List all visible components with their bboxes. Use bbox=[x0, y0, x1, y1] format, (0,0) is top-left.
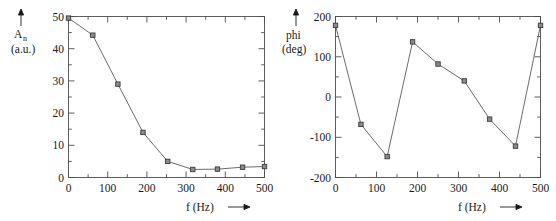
phase-data-markers bbox=[333, 23, 542, 159]
amplitude-x-tick-label-0: 0 bbox=[66, 182, 72, 194]
phase-y-axis-arrow-icon bbox=[293, 9, 298, 26]
amplitude-y-tick-label-0: 0 bbox=[58, 172, 64, 184]
phase-x-tick-label-100: 100 bbox=[368, 182, 386, 194]
amplitude-x-major-ticks bbox=[69, 17, 265, 178]
amplitude-y-minor-ticks bbox=[69, 33, 265, 162]
phase-y-tick-label-neg100: -100 bbox=[310, 131, 331, 143]
phase-panel: phi (deg) bbox=[278, 0, 556, 221]
amplitude-x-tick-label-500: 500 bbox=[256, 182, 274, 194]
amplitude-plot-frame bbox=[69, 17, 265, 178]
amplitude-x-axis-arrow-icon bbox=[228, 204, 250, 209]
amplitude-y-tick-label-10: 10 bbox=[53, 139, 65, 151]
amplitude-x-tick-label-200: 200 bbox=[138, 182, 156, 194]
figure-container: A n (a.u.) bbox=[0, 0, 556, 221]
phase-data-line bbox=[336, 25, 541, 156]
phase-x-tick-label-500: 500 bbox=[532, 182, 550, 194]
phase-y-tick-label-100: 100 bbox=[314, 51, 332, 63]
amplitude-x-tick-label-400: 400 bbox=[217, 182, 235, 194]
data-point bbox=[410, 40, 414, 44]
phase-x-tick-label-0: 0 bbox=[333, 182, 339, 194]
amplitude-y-major-ticks bbox=[69, 17, 265, 178]
data-point bbox=[262, 164, 266, 168]
phase-x-minor-ticks bbox=[356, 17, 520, 178]
amplitude-x-tick-label-300: 300 bbox=[177, 182, 195, 194]
data-point bbox=[436, 62, 440, 66]
data-point bbox=[333, 23, 337, 27]
phase-y-tick-label-neg200: -200 bbox=[310, 172, 331, 184]
phase-x-axis-label: f (Hz) bbox=[458, 201, 486, 214]
data-point bbox=[538, 23, 542, 27]
amplitude-data-line bbox=[69, 18, 265, 169]
data-point bbox=[215, 167, 219, 171]
phase-x-tick-label-400: 400 bbox=[491, 182, 509, 194]
data-point bbox=[240, 165, 244, 169]
phase-y-axis-label-units: (deg) bbox=[282, 43, 306, 56]
phase-x-axis-arrow-icon bbox=[500, 204, 522, 209]
amplitude-data-markers bbox=[66, 16, 266, 172]
data-point bbox=[66, 16, 70, 20]
amplitude-x-minor-ticks bbox=[88, 17, 245, 178]
phase-x-major-ticks bbox=[336, 17, 541, 178]
amplitude-y-axis-label-main: A bbox=[14, 28, 23, 40]
amplitude-y-tick-label-20: 20 bbox=[53, 107, 65, 119]
data-point bbox=[165, 159, 169, 163]
data-point bbox=[359, 122, 363, 126]
amplitude-y-axis-label-subscript: n bbox=[23, 34, 27, 43]
phase-plot-svg: phi (deg) bbox=[278, 0, 556, 221]
amplitude-plot-svg: A n (a.u.) bbox=[0, 0, 278, 221]
amplitude-y-tick-label-30: 30 bbox=[53, 75, 65, 87]
data-point bbox=[487, 117, 491, 121]
data-point bbox=[91, 33, 95, 37]
amplitude-y-tick-label-40: 40 bbox=[53, 43, 65, 55]
phase-x-tick-label-300: 300 bbox=[450, 182, 468, 194]
amplitude-x-tick-label-100: 100 bbox=[99, 182, 117, 194]
phase-y-major-ticks bbox=[336, 17, 541, 178]
phase-y-tick-label-200: 200 bbox=[314, 11, 332, 23]
amplitude-y-axis-label-units: (a.u.) bbox=[11, 43, 35, 56]
data-point bbox=[141, 130, 145, 134]
amplitude-panel: A n (a.u.) bbox=[0, 0, 278, 221]
amplitude-x-axis-label: f (Hz) bbox=[186, 201, 214, 214]
data-point bbox=[116, 82, 120, 86]
data-point bbox=[513, 144, 517, 148]
amplitude-y-tick-label-50: 50 bbox=[53, 11, 65, 23]
amplitude-y-axis-arrow-icon bbox=[18, 9, 23, 26]
data-point bbox=[385, 154, 389, 158]
phase-y-minor-ticks bbox=[336, 37, 541, 158]
phase-x-tick-label-200: 200 bbox=[409, 182, 427, 194]
phase-plot-frame bbox=[336, 17, 541, 178]
phase-y-axis-label-main: phi bbox=[286, 29, 301, 42]
phase-y-tick-label-0: 0 bbox=[325, 91, 331, 103]
data-point bbox=[191, 167, 195, 171]
data-point bbox=[462, 79, 466, 83]
